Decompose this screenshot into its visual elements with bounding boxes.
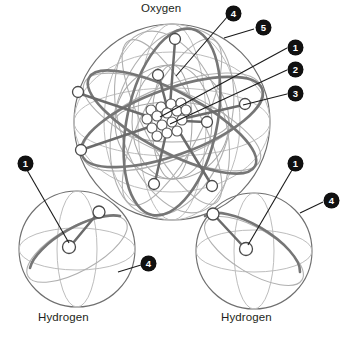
electron (153, 70, 164, 81)
callout-badge-1-left-hydrogen[interactable]: 1 (18, 156, 33, 171)
callout-badge-4-top[interactable]: 4 (226, 6, 241, 21)
hydrogen-left-sphere-outline (19, 191, 135, 307)
oxygen-label: Oxygen (141, 2, 181, 14)
hydrogen-right-label: Hydrogen (221, 311, 272, 323)
leader-4-right-h (300, 202, 323, 213)
callout-badge-2-right[interactable]: 2 (288, 62, 303, 77)
electron (202, 117, 213, 128)
hydrogen-left-electron (93, 206, 105, 218)
electron (73, 87, 84, 98)
hydrogen-right-nucleus (240, 243, 253, 256)
electron (149, 179, 160, 190)
hydrogen-left-atom-group (17, 191, 136, 307)
callout-badge-1-right[interactable]: 1 (288, 40, 303, 55)
electron (170, 34, 181, 45)
hydrogen-left-label: Hydrogen (38, 311, 89, 323)
electron (207, 181, 218, 192)
leader-3-right (243, 94, 287, 105)
oxygen-atom-group (70, 14, 275, 231)
callout-badge-4-left-hydrogen[interactable]: 4 (141, 256, 156, 271)
leader-5-top (224, 29, 254, 38)
callout-badge-3-right[interactable]: 3 (288, 86, 303, 101)
electron (76, 145, 87, 156)
callout-badge-4-right-hydrogen[interactable]: 4 (324, 193, 339, 208)
callout-badge-5-top[interactable]: 5 (256, 20, 271, 35)
diagram-canvas: Oxygen Hydrogen Hydrogen 4 5 1 2 3 1 4 1… (0, 0, 344, 343)
hydrogen-left-meridians (19, 191, 135, 307)
leader-4-left-h (118, 265, 141, 272)
hydrogen-right-electron (207, 208, 219, 220)
callout-badge-1-right-hydrogen[interactable]: 1 (288, 156, 303, 171)
hydrogen-right-atom-group (195, 193, 314, 309)
leader-1-left-h (27, 170, 69, 243)
